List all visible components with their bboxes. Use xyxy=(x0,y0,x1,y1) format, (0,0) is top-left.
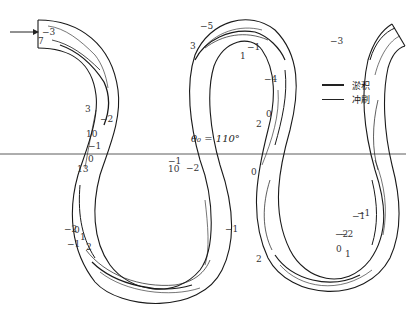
contour-label: 3 xyxy=(190,42,196,51)
contour-label: 0 xyxy=(336,245,342,254)
legend-item-deposition: 淤积 xyxy=(322,78,370,92)
legend-label: 冲刷 xyxy=(352,93,370,106)
contour-label: −2 xyxy=(335,230,348,239)
contour-label: −1 xyxy=(225,225,238,234)
legend-item-scour: 冲刷 xyxy=(322,92,370,106)
thin-line-swatch xyxy=(322,99,344,100)
contour-label: −2 xyxy=(186,164,199,173)
channel-diagram xyxy=(0,0,406,309)
contour-label: 10 xyxy=(86,130,97,139)
contour-label: 0 xyxy=(251,168,257,177)
contour-label: −1 xyxy=(88,142,101,151)
arrow-right-icon xyxy=(10,29,39,35)
contour-label: 2 xyxy=(256,120,262,129)
legend-label: 淤积 xyxy=(352,79,370,92)
contour-label: −3 xyxy=(330,37,343,46)
angle-label: θ₀ = 110° xyxy=(191,133,240,144)
contour-label: 13 xyxy=(77,165,88,174)
contour-label: 7 xyxy=(38,37,44,46)
thick-line-swatch xyxy=(322,84,344,86)
legend: 淤积 冲刷 xyxy=(322,78,370,106)
contour-label: 1 xyxy=(240,52,246,61)
contour-label: 2 xyxy=(256,255,262,264)
contour-label: −5 xyxy=(200,22,213,31)
contour-label: 2 xyxy=(86,243,92,252)
contour-label: −1 xyxy=(247,43,260,52)
contour-label: 0 xyxy=(88,155,94,164)
contour-label: −2 xyxy=(100,115,113,124)
contour-label: 1 xyxy=(345,250,351,259)
contour-label: 3 xyxy=(85,105,91,114)
contour-label: 1 xyxy=(80,233,86,242)
contour-label: 10 xyxy=(168,165,179,174)
contour-label: −4 xyxy=(264,75,277,84)
contour-label: −1 xyxy=(67,240,80,249)
contour-label: −1 xyxy=(357,209,370,218)
contour-label: 0 xyxy=(266,110,272,119)
contour-label: 0 xyxy=(74,226,80,235)
